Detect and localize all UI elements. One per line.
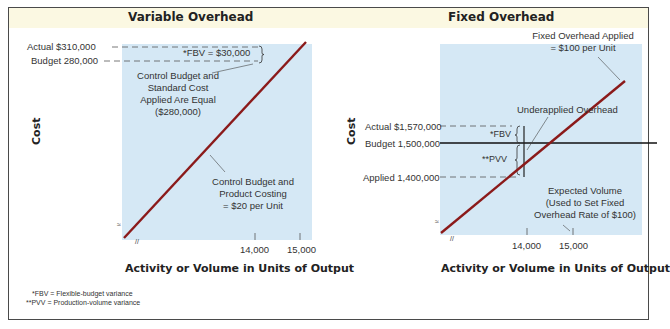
left-product-costing-annotation: Control Budget and Product Costing = $20…: [208, 176, 298, 212]
right-underapplied-annotation: Underapplied Overhead: [517, 104, 618, 115]
annotation-line: Overhead Rate of $100): [530, 209, 640, 221]
left-x-tick-15000: 15,000: [287, 244, 316, 255]
annotation-line: ($280,000): [133, 106, 223, 118]
left-y-axis-break-icon: ≈: [117, 221, 121, 228]
annotation-line: = $20 per Unit: [208, 200, 298, 212]
right-y-axis-label: Cost: [345, 118, 358, 145]
left-y-axis-label: Cost: [30, 118, 43, 145]
annotation-line: Product Costing: [208, 188, 298, 200]
right-budget-label: Budget 1,500,000: [365, 138, 440, 149]
annotation-line: Control Budget and: [133, 70, 223, 82]
footnote-pvv: **PVV = Production-volume variance: [26, 299, 140, 306]
left-x-axis-label: Activity or Volume in Units of Output: [125, 262, 354, 275]
annotation-line: (Used to Set Fixed: [530, 197, 640, 209]
annotation-line: Control Budget and: [208, 176, 298, 188]
right-x-axis-break-icon: //: [450, 235, 454, 242]
left-x-tick-14000: 14,000: [240, 244, 269, 255]
annotation-line: Fixed Overhead Applied: [528, 30, 638, 42]
right-pvv-label: **PVV: [482, 154, 507, 164]
right-fbv-label: *FBV: [490, 129, 511, 139]
right-expected-volume-annotation: Expected Volume (Used to Set Fixed Overh…: [530, 185, 640, 221]
left-actual-label: Actual $310,000: [27, 41, 96, 52]
annotation-line: Expected Volume: [530, 185, 640, 197]
right-x-axis-label: Activity or Volume in Units of Output: [441, 262, 670, 275]
right-x-tick-15000: 15,000: [559, 240, 588, 251]
annotation-line: = $100 per Unit: [528, 42, 638, 54]
right-y-axis-break-icon: ≈: [435, 218, 439, 225]
left-control-budget-annotation: Control Budget and Standard Cost Applied…: [133, 70, 223, 118]
right-actual-label: Actual $1,570,000: [365, 121, 442, 132]
right-applied-annotation: Fixed Overhead Applied = $100 per Unit: [528, 30, 638, 54]
left-x-axis-break-icon: //: [135, 238, 139, 245]
footnote-fbv: *FBV = Flexible-budget variance: [32, 290, 133, 297]
right-applied-label: Applied 1,400,000: [363, 172, 440, 183]
left-fbv-annotation: *FBV = $30,000: [183, 47, 250, 58]
annotation-line: Standard Cost: [133, 82, 223, 94]
annotation-line: Applied Are Equal: [133, 94, 223, 106]
left-budget-label: Budget 280,000: [31, 55, 98, 66]
right-x-tick-14000: 14,000: [512, 240, 541, 251]
